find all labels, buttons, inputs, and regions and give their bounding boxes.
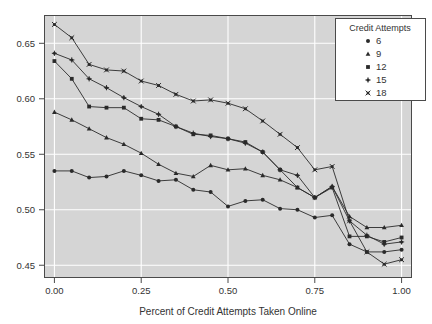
y-tick-label-3: 0.60	[17, 93, 36, 104]
point-6-11	[243, 199, 247, 203]
point-12-3	[105, 106, 109, 110]
x-tick-label-0: 0.00	[45, 285, 64, 296]
point-12-20	[400, 236, 404, 240]
point-6-16	[330, 213, 334, 217]
point-6-10	[226, 204, 230, 208]
chart-container: 0.000.250.500.751.000.450.500.550.600.65…	[0, 0, 432, 324]
y-tick-label-0: 0.45	[17, 260, 36, 271]
x-tick-label-2: 0.50	[219, 285, 238, 296]
point-6-17	[348, 242, 352, 246]
point-6-6	[157, 179, 161, 183]
legend-label-15: 15	[376, 74, 387, 85]
legend-label-12: 12	[376, 61, 387, 72]
point-12-14	[296, 186, 300, 190]
point-6-1	[70, 169, 74, 173]
point-6-9	[209, 190, 213, 194]
y-tick-label-1: 0.50	[17, 204, 36, 215]
x-tick-label-3: 0.75	[306, 285, 325, 296]
point-12-17	[348, 234, 352, 238]
point-6-8	[191, 188, 195, 192]
chart-svg: 0.000.250.500.751.000.450.500.550.600.65…	[0, 0, 432, 324]
point-12-6	[157, 118, 161, 122]
y-tick-label-4: 0.65	[17, 38, 36, 49]
point-12-0	[53, 59, 57, 63]
point-6-15	[313, 216, 317, 220]
point-12-4	[122, 106, 126, 110]
point-12-2	[87, 105, 91, 109]
legend-label-18: 18	[376, 87, 387, 98]
point-6-12	[261, 198, 265, 202]
point-6-13	[278, 207, 282, 211]
point-6-3	[104, 174, 108, 178]
point-6-7	[174, 178, 178, 182]
point-12-5	[139, 117, 143, 121]
point-6-20	[400, 248, 404, 252]
x-tick-label-1: 0.25	[132, 285, 151, 296]
point-6-19	[382, 250, 386, 254]
point-6-0	[52, 169, 56, 173]
x-tick-label-4: 1.00	[392, 285, 411, 296]
x-axis-title: Percent of Credit Attempts Taken Online	[139, 306, 317, 317]
legend-title: Credit Attempts	[349, 23, 411, 33]
point-6-2	[87, 176, 91, 180]
point-6-4	[122, 169, 126, 173]
legend-label-9: 9	[376, 48, 381, 59]
point-6-5	[139, 173, 143, 177]
point-legend-6-0	[366, 39, 370, 43]
point-12-1	[70, 77, 74, 81]
y-tick-label-2: 0.55	[17, 149, 36, 160]
point-6-14	[295, 208, 299, 212]
legend-label-6: 6	[376, 35, 381, 46]
legend: Credit Attempts69121518	[336, 19, 426, 101]
point-legend-12-2	[366, 65, 370, 69]
